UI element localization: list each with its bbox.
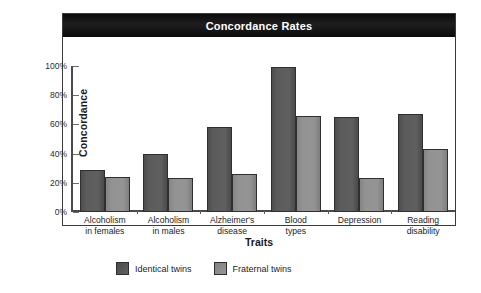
bar-fraternal — [168, 178, 193, 212]
bar-group — [264, 66, 328, 212]
x-axis-category-label: Readingdisability — [391, 215, 455, 237]
legend-label: Identical twins — [135, 264, 192, 274]
x-axis-separator — [328, 210, 329, 214]
chart-frame: Concordance Rates 0%20%40%60%80%100% Con… — [62, 13, 456, 226]
x-axis-category-label: Depression — [328, 215, 392, 226]
y-tick-label: 0% — [55, 207, 67, 217]
category-label-line: Alcoholism — [73, 215, 137, 226]
x-axis-category-label: Bloodtypes — [264, 215, 328, 237]
legend-swatch-icon — [116, 262, 129, 275]
bar-fraternal — [232, 174, 257, 212]
bar-group — [137, 66, 201, 212]
category-label-line: Alzheimer's — [200, 215, 264, 226]
chart-title-band: Concordance Rates — [63, 14, 455, 37]
x-axis-separator — [391, 210, 392, 214]
x-axis-title: Traits — [62, 236, 456, 248]
x-axis-separator — [137, 210, 138, 214]
y-tick-label: 80% — [50, 90, 67, 100]
bar-group — [328, 66, 392, 212]
bar-groups — [73, 66, 455, 212]
bar-group — [73, 66, 137, 212]
bar-fraternal — [105, 177, 130, 212]
chart-figure: Concordance Rates 0%20%40%60%80%100% Con… — [0, 0, 481, 293]
y-tick-label: 40% — [50, 149, 67, 159]
bar-fraternal — [296, 116, 321, 212]
category-label-line: Alcoholism — [137, 215, 201, 226]
category-label-line: Depression — [328, 215, 392, 226]
chart-title: Concordance Rates — [206, 20, 313, 32]
y-tick-label: 100% — [45, 61, 67, 71]
legend-swatch-icon — [214, 262, 227, 275]
chart-legend: Identical twinsFraternal twins — [62, 262, 456, 275]
bar-identical — [143, 154, 168, 212]
x-axis-category-label: Alcoholismin males — [137, 215, 201, 237]
category-label-line: Blood — [264, 215, 328, 226]
bar-identical — [207, 127, 232, 212]
x-axis-separator — [264, 210, 265, 214]
category-label-line: Reading — [391, 215, 455, 226]
bar-fraternal — [359, 178, 384, 212]
bar-fraternal — [423, 149, 448, 212]
bar-identical — [334, 117, 359, 212]
bar-group — [391, 66, 455, 212]
bar-identical — [398, 114, 423, 212]
x-axis-category-label: Alzheimer'sdisease — [200, 215, 264, 237]
x-axis-separator — [200, 210, 201, 214]
bar-group — [200, 66, 264, 212]
legend-label: Fraternal twins — [233, 264, 292, 274]
legend-item-identical-twins: Identical twins — [116, 262, 192, 275]
plot-area: 0%20%40%60%80%100% Concordance Alcoholis… — [63, 37, 457, 227]
bar-identical — [80, 170, 105, 212]
bar-identical — [271, 67, 296, 212]
legend-item-fraternal-twins: Fraternal twins — [214, 262, 292, 275]
y-tick-label: 20% — [50, 178, 67, 188]
y-tick-label: 60% — [50, 119, 67, 129]
x-axis-category-label: Alcoholismin females — [73, 215, 137, 237]
y-tick-mark — [73, 212, 79, 213]
